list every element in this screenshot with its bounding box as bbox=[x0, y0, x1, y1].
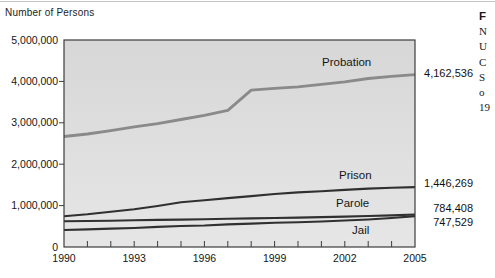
cropped-figure-caption: F N U C S o 19 bbox=[479, 9, 495, 124]
end-value-probation: 4,162,536 bbox=[416, 67, 473, 79]
y-tick-label: 3,000,000 bbox=[11, 116, 58, 128]
caption-line: N bbox=[479, 24, 495, 39]
x-tick-label: 1990 bbox=[52, 252, 76, 264]
x-axis-tick-labels: 199019931996199920022005 bbox=[52, 252, 427, 264]
end-value-prison: 1,446,269 bbox=[416, 177, 473, 189]
y-tick-label: 0 bbox=[52, 241, 58, 253]
series-label-probation: Probation bbox=[322, 56, 371, 68]
x-tick-label: 2005 bbox=[403, 252, 427, 264]
y-tick-label: 5,000,000 bbox=[11, 34, 58, 46]
caption-line: o bbox=[479, 85, 495, 100]
x-tick-label: 1993 bbox=[123, 252, 147, 264]
figure-page: { "axis_title": "Number of Persons", "co… bbox=[0, 0, 495, 278]
y-tick-label: 2,000,000 bbox=[11, 158, 58, 170]
end-value-jail: 747,529 bbox=[416, 216, 473, 228]
series-label-prison: Prison bbox=[339, 169, 372, 181]
series-label-parole: Parole bbox=[336, 197, 369, 209]
x-tick-label: 2002 bbox=[333, 252, 357, 264]
y-axis-ticks bbox=[59, 81, 64, 205]
line-chart: 199019931996199920022005 01,000,0002,000… bbox=[0, 0, 495, 278]
series-label-jail: Jail bbox=[352, 224, 369, 236]
caption-line: S bbox=[479, 70, 495, 85]
x-tick-label: 1996 bbox=[193, 252, 217, 264]
y-tick-label: 4,000,000 bbox=[11, 75, 58, 87]
x-tick-label: 1999 bbox=[263, 252, 287, 264]
end-value-parole: 784,408 bbox=[416, 202, 473, 214]
caption-line: F bbox=[479, 9, 495, 24]
y-axis-tick-labels: 01,000,0002,000,0003,000,0004,000,0005,0… bbox=[11, 34, 58, 253]
y-tick-label: 1,000,000 bbox=[11, 199, 58, 211]
caption-line: U bbox=[479, 39, 495, 54]
caption-line: C bbox=[479, 55, 495, 70]
caption-line: 19 bbox=[479, 100, 495, 115]
